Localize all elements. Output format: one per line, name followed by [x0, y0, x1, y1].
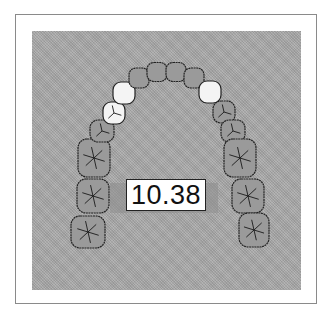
tooth-l-molar-3: [239, 213, 269, 247]
measurement-value: 10.38: [131, 180, 201, 211]
dental-arch: [0, 0, 335, 318]
tooth-l-molar-2: [232, 179, 264, 213]
tooth-l-canine: [199, 81, 221, 103]
tooth-r-molar-3: [71, 216, 105, 248]
tooth-r-lateral: [129, 68, 149, 88]
tooth-r-molar-2: [77, 179, 109, 213]
tooth-r-premolar-1: [103, 102, 125, 124]
tooth-r-molar-1: [78, 139, 110, 177]
tooth-r-central: [147, 63, 167, 82]
tooth-l-central: [166, 63, 186, 82]
measurement-label: 10.38: [126, 179, 206, 211]
tooth-l-molar-1: [224, 139, 256, 177]
